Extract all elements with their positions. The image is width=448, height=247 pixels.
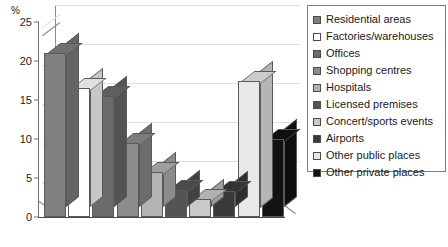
y-axis-tick-mark: [34, 178, 39, 179]
legend-item[interactable]: Licensed premises: [313, 96, 445, 113]
legend-item[interactable]: Offices: [313, 45, 445, 62]
legend-item-label: Residential areas: [326, 14, 411, 25]
legend-item-label: Other private places: [326, 167, 424, 178]
legend-item[interactable]: Residential areas: [313, 11, 445, 28]
legend-item[interactable]: Factories/warehouses: [313, 28, 445, 45]
legend-swatch-icon: [313, 50, 321, 58]
legend-swatch-icon: [313, 84, 321, 92]
legend-item[interactable]: Airports: [313, 130, 445, 147]
legend-item-label: Offices: [326, 48, 360, 59]
legend-item[interactable]: Hospitals: [313, 79, 445, 96]
bar-side-face: [163, 152, 176, 207]
y-axis-tick-mark: [34, 100, 39, 101]
y-axis-tick-label: 5: [8, 172, 32, 184]
legend-item-label: Shopping centres: [326, 65, 412, 76]
legend-swatch-icon: [313, 16, 321, 24]
legend-item[interactable]: Other public places: [313, 147, 445, 164]
legend-swatch-icon: [313, 135, 321, 143]
y-axis-tick-labels: 0510152025: [0, 0, 32, 247]
legend-swatch-icon: [313, 169, 321, 177]
y-axis-tick-mark: [34, 217, 39, 218]
y-axis-tick-mark: [34, 139, 39, 140]
y-axis-tick-label: 20: [8, 55, 32, 67]
legend-item-label: Factories/warehouses: [326, 31, 434, 42]
bar-column: [44, 53, 66, 217]
legend-swatch-icon: [313, 33, 321, 41]
y-axis-tick-label: 25: [8, 16, 32, 28]
y-axis-tick-mark: [34, 22, 39, 23]
legend-item[interactable]: Shopping centres: [313, 62, 445, 79]
legend-item-label: Hospitals: [326, 82, 371, 93]
y-axis-tick-mark: [34, 61, 39, 62]
chart-screenshot: % 0510152025 Residential areasFactories/…: [0, 0, 448, 247]
legend-item-label: Other public places: [326, 150, 420, 161]
bar-side-face: [66, 33, 79, 207]
legend-swatch-icon: [313, 152, 321, 160]
y-axis-tick-label: 0: [8, 211, 32, 223]
bar-series: [38, 5, 300, 232]
legend-item[interactable]: Other private places: [313, 164, 445, 181]
y-axis-tick-label: 15: [8, 94, 32, 106]
y-axis-tick-label: 10: [8, 133, 32, 145]
legend-swatch-icon: [313, 101, 321, 109]
legend: Residential areasFactories/warehousesOff…: [307, 5, 446, 172]
legend-item[interactable]: Concert/sports events: [313, 113, 445, 130]
bar-front-face: [44, 53, 66, 217]
legend-item-label: Licensed premises: [326, 99, 418, 110]
legend-item-label: Concert/sports events: [326, 116, 433, 127]
legend-swatch-icon: [313, 118, 321, 126]
legend-item-label: Airports: [326, 133, 364, 144]
legend-swatch-icon: [313, 67, 321, 75]
